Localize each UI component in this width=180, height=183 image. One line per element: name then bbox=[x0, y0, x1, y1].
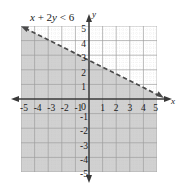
label-var-y: y bbox=[52, 11, 57, 23]
x-tick-label--4: -4 bbox=[34, 103, 42, 113]
y-tick-label-4: 4 bbox=[81, 39, 86, 49]
label-less-than: < bbox=[60, 11, 66, 23]
x-tick-label--2: -2 bbox=[61, 103, 69, 113]
label-six: 6 bbox=[69, 11, 75, 23]
origin-label: 0 bbox=[81, 101, 86, 112]
y-tick-label--4: -4 bbox=[80, 155, 88, 165]
label-plus: + bbox=[38, 11, 44, 23]
boundary-line-right-arrow bbox=[156, 91, 164, 98]
x-tick-label-1: 1 bbox=[100, 103, 105, 113]
x-tick-label-4: 4 bbox=[141, 103, 146, 113]
y-tick-label--3: -3 bbox=[80, 141, 88, 151]
x-axis-label: x bbox=[170, 96, 175, 106]
y-tick-label-3: 3 bbox=[81, 53, 86, 63]
y-axis-label: y bbox=[91, 9, 96, 19]
x-tick-label--3: -3 bbox=[47, 103, 55, 113]
coordinate-plane-svg: x y -5 -4 -3 -2 -1 1 2 3 4 5 0 5 4 3 2 1… bbox=[0, 0, 180, 183]
y-tick-label-2: 2 bbox=[81, 68, 86, 78]
x-tick-label-5: 5 bbox=[153, 103, 158, 113]
y-tick-label--5: -5 bbox=[80, 169, 88, 179]
x-tick-label-3: 3 bbox=[127, 103, 132, 113]
y-tick-label--2: -2 bbox=[80, 126, 88, 136]
x-tick-label--5: -5 bbox=[20, 103, 28, 113]
y-tick-label--1: -1 bbox=[80, 112, 88, 122]
inequality-annotation: x + 2y < 6 bbox=[30, 11, 74, 23]
x-axis-left-arrow bbox=[11, 96, 19, 102]
y-tick-label-5: 5 bbox=[81, 24, 86, 34]
inequality-graph: x y -5 -4 -3 -2 -1 1 2 3 4 5 0 5 4 3 2 1… bbox=[0, 0, 180, 183]
label-var-x: x bbox=[30, 11, 35, 23]
x-tick-label-2: 2 bbox=[114, 103, 119, 113]
y-tick-label-1: 1 bbox=[81, 82, 86, 92]
